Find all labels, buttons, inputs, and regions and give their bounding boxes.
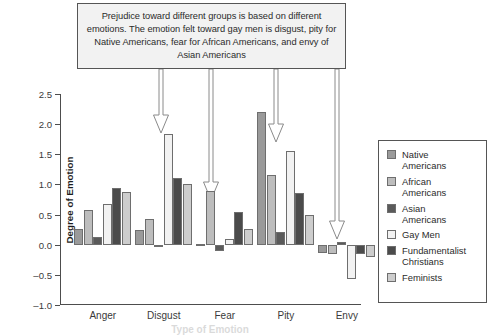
legend-item-label: African Americans bbox=[402, 176, 446, 199]
y-tick-label: 2.0 bbox=[39, 119, 52, 130]
y-tick-label: 1.5 bbox=[39, 149, 52, 160]
legend-swatch-icon bbox=[387, 230, 396, 239]
legend-swatch-icon bbox=[387, 150, 396, 159]
legend-item-label: Asian Americans bbox=[402, 203, 446, 226]
bar-fear-native-americans bbox=[196, 244, 205, 246]
bar-fear-gay-men bbox=[225, 239, 234, 245]
legend-item-4[interactable]: Fundamentalist Christians bbox=[387, 245, 480, 268]
x-label-fear: Fear bbox=[215, 310, 236, 321]
bar-anger-gay-men bbox=[103, 204, 112, 244]
x-axis-title: Type of Emotion bbox=[171, 324, 249, 335]
bar-fear-african-americans bbox=[206, 191, 215, 245]
bar-envy-feminists bbox=[366, 245, 375, 257]
legend-item-label: Gay Men bbox=[402, 229, 440, 240]
x-label-pity: Pity bbox=[277, 310, 294, 321]
bar-group-pity bbox=[257, 94, 315, 305]
bar-group-disgust bbox=[135, 94, 193, 305]
x-label-anger: Anger bbox=[89, 310, 116, 321]
bar-fear-fundamentalist-christians bbox=[234, 212, 243, 245]
bar-envy-native-americans bbox=[318, 245, 327, 253]
x-label-disgust: Disgust bbox=[147, 310, 180, 321]
bar-pity-african-americans bbox=[267, 175, 276, 244]
y-tick-label: –0.5 bbox=[33, 269, 52, 280]
bar-pity-asian-americans bbox=[276, 232, 285, 245]
y-tick-mark bbox=[55, 305, 60, 306]
callout-box: Prejudice toward different groups is bas… bbox=[77, 3, 346, 69]
bar-envy-african-americans bbox=[328, 245, 337, 254]
bar-disgust-fundamentalist-christians bbox=[173, 178, 182, 245]
bar-disgust-gay-men bbox=[164, 134, 173, 245]
bar-pity-feminists bbox=[305, 215, 314, 245]
bar-anger-feminists bbox=[122, 192, 131, 244]
y-tick-label: –1.0 bbox=[33, 300, 52, 311]
y-tick-mark bbox=[55, 154, 60, 155]
bar-group-fear bbox=[196, 94, 254, 305]
y-tick-mark bbox=[55, 184, 60, 185]
legend-item-1[interactable]: African Americans bbox=[387, 176, 480, 199]
callout-text: Prejudice toward different groups is bas… bbox=[86, 10, 337, 63]
x-label-envy: Envy bbox=[336, 310, 358, 321]
bar-envy-asian-americans bbox=[337, 242, 346, 244]
y-tick-mark bbox=[55, 215, 60, 216]
y-tick-mark bbox=[55, 275, 60, 276]
bar-disgust-feminists bbox=[183, 184, 192, 245]
y-tick-label: 1.0 bbox=[39, 179, 52, 190]
legend-swatch-icon bbox=[387, 273, 396, 282]
legend-swatch-icon bbox=[387, 204, 396, 213]
bar-disgust-asian-americans bbox=[154, 245, 163, 247]
legend-swatch-icon bbox=[387, 177, 396, 186]
bar-anger-african-americans bbox=[84, 210, 93, 245]
bar-pity-fundamentalist-christians bbox=[295, 193, 304, 245]
bar-pity-native-americans bbox=[257, 112, 266, 245]
bar-group-envy bbox=[318, 94, 376, 305]
y-axis-line bbox=[60, 94, 61, 305]
y-tick-mark bbox=[55, 124, 60, 125]
bar-anger-asian-americans bbox=[93, 237, 102, 245]
bar-anger-native-americans bbox=[74, 229, 83, 245]
legend-item-2[interactable]: Asian Americans bbox=[387, 203, 480, 226]
legend-item-3[interactable]: Gay Men bbox=[387, 229, 480, 240]
bar-group-anger bbox=[74, 94, 132, 305]
legend-swatch-icon bbox=[387, 246, 396, 255]
legend-item-5[interactable]: Feminists bbox=[387, 272, 480, 283]
y-tick-mark bbox=[55, 94, 60, 95]
bar-envy-gay-men bbox=[347, 245, 356, 279]
bar-fear-feminists bbox=[244, 229, 253, 245]
bar-disgust-native-americans bbox=[135, 230, 144, 245]
y-tick-label: 0.0 bbox=[39, 239, 52, 250]
y-tick-label: 0.5 bbox=[39, 209, 52, 220]
bar-disgust-african-americans bbox=[145, 219, 154, 244]
legend-item-label: Feminists bbox=[402, 272, 442, 283]
bar-fear-asian-americans bbox=[215, 245, 224, 251]
chart-legend: Native AmericansAfrican AmericansAsian A… bbox=[378, 140, 487, 303]
legend-items: Native AmericansAfrican AmericansAsian A… bbox=[387, 149, 480, 283]
bar-anger-fundamentalist-christians bbox=[112, 188, 121, 245]
y-tick-mark bbox=[55, 245, 60, 246]
y-tick-label: 2.5 bbox=[39, 89, 52, 100]
bar-envy-fundamentalist-christians bbox=[356, 245, 365, 255]
chart-plot-area: Degree of Emotion 2.52.01.51.00.50.0–0.5… bbox=[60, 94, 360, 305]
legend-item-0[interactable]: Native Americans bbox=[387, 149, 480, 172]
legend-item-label: Fundamentalist Christians bbox=[402, 245, 466, 268]
bar-pity-gay-men bbox=[286, 151, 295, 244]
legend-item-label: Native Americans bbox=[402, 149, 446, 172]
